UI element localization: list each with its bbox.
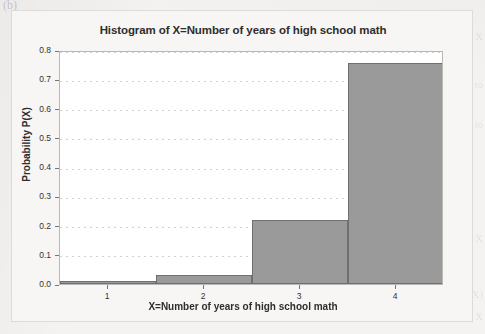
screenshot-root: (b) X ion to on lo X (X) u that X Histog… — [0, 0, 485, 334]
histogram-bar — [348, 63, 443, 284]
x-axis-title: X=Number of years of high school math — [12, 301, 474, 312]
x-axis-tick — [395, 285, 396, 289]
x-axis-tick-label: 1 — [87, 291, 127, 301]
chart-title: Histogram of X=Number of years of high s… — [12, 24, 474, 36]
histogram-bar — [60, 281, 156, 284]
plot-area — [59, 51, 443, 285]
y-axis-tick-label: 0.0 — [15, 279, 51, 289]
x-axis-tick — [299, 285, 300, 289]
x-axis-tick — [107, 285, 108, 289]
y-axis-tick-label: 0.5 — [15, 133, 51, 143]
y-axis-tick-label: 0.3 — [15, 191, 51, 201]
gridline — [60, 52, 442, 53]
y-axis-tick-label: 0.4 — [15, 162, 51, 172]
y-axis-tick-label: 0.7 — [15, 74, 51, 84]
x-axis-tick-label: 4 — [375, 291, 415, 301]
x-axis-tick — [203, 285, 204, 289]
y-axis-tick-label: 0.8 — [15, 45, 51, 55]
y-axis-tick-label: 0.1 — [15, 250, 51, 260]
y-axis-title: Probability P(X) — [21, 85, 32, 205]
histogram-figure: Histogram of X=Number of years of high s… — [11, 10, 473, 322]
y-axis-tick-label: 0.6 — [15, 104, 51, 114]
histogram-bar — [252, 220, 348, 284]
y-axis-tick-label: 0.2 — [15, 221, 51, 231]
histogram-bar — [156, 275, 252, 284]
x-axis-tick-label: 2 — [183, 291, 223, 301]
x-axis-tick-label: 3 — [279, 291, 319, 301]
